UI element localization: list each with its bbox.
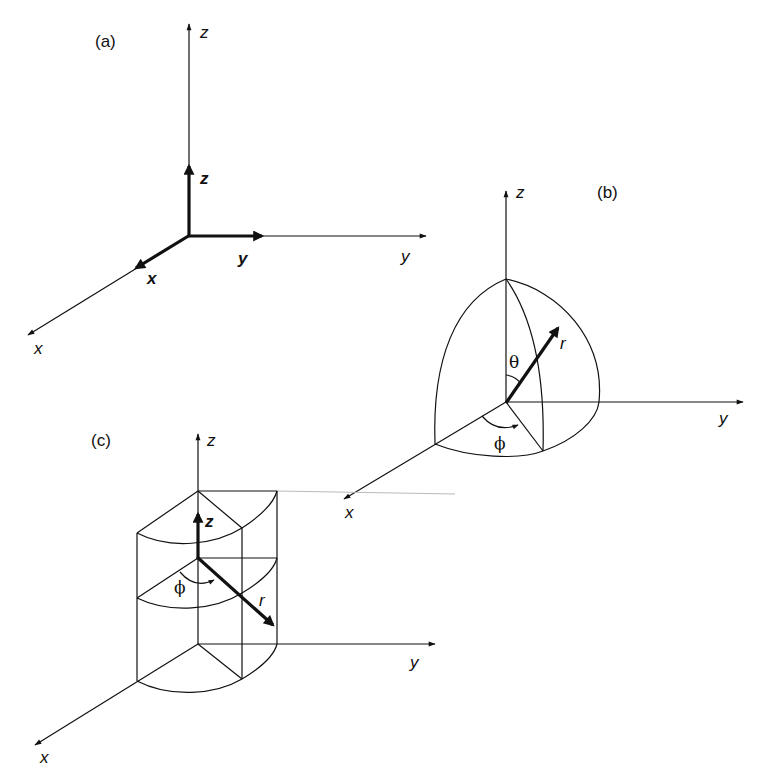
- c-z-unit-label: z: [204, 512, 214, 531]
- b-z-axis-label: z: [515, 183, 525, 202]
- c-x-axis: [35, 644, 198, 745]
- b-theta-label: θ: [509, 352, 519, 372]
- c-phi-label: ϕ: [174, 577, 186, 597]
- panel-b-spherical: (b) z y x r θ ϕ: [344, 183, 743, 522]
- b-theta-arc: [506, 375, 520, 383]
- b-x-axis-label: x: [344, 503, 354, 522]
- coordinate-systems-figure: (a) z y x z y x (b) z y: [0, 0, 762, 783]
- c-mid-x-edge: [137, 558, 198, 598]
- a-x-axis-label: x: [33, 339, 43, 358]
- panel-a-cartesian: (a) z y x z y x: [28, 23, 426, 358]
- figure-svg: (a) z y x z y x (b) z y: [0, 0, 762, 783]
- c-bottom-phi-edge: [198, 644, 242, 679]
- b-xz-arc: [435, 279, 506, 444]
- a-y-unit-label: y: [237, 249, 249, 268]
- c-z-axis-label: z: [206, 431, 216, 450]
- panel-b-label: (b): [597, 183, 618, 202]
- c-x-axis-label: x: [39, 748, 49, 767]
- b-phi-arc: [482, 416, 518, 428]
- b-r-label: r: [560, 334, 567, 353]
- c-top-x-edge: [137, 491, 198, 533]
- a-x-unit-vector: [136, 235, 190, 268]
- c-faint-guide-line: [277, 491, 455, 494]
- panel-c-label: (c): [91, 431, 111, 450]
- a-x-unit-label: x: [146, 269, 158, 288]
- c-r-label: r: [259, 591, 266, 610]
- b-y-axis-label: y: [718, 409, 729, 428]
- b-phi-label: ϕ: [494, 433, 506, 453]
- a-y-axis-label: y: [400, 247, 411, 266]
- c-y-axis-label: y: [409, 653, 420, 672]
- panel-a-label: (a): [95, 32, 116, 51]
- a-z-axis-label: z: [199, 23, 209, 42]
- panel-c-cylindrical: (c) z y x z r ϕ: [35, 431, 455, 767]
- a-z-unit-label: z: [199, 169, 209, 188]
